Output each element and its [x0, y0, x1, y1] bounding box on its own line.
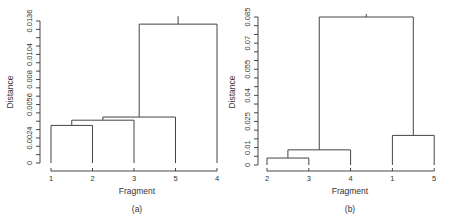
y-tick-label: 0.04 — [243, 88, 252, 103]
y-tick-label: 0.085 — [243, 8, 252, 27]
figure: 00.00240.00560.0080.01040.0136Distance12… — [0, 0, 449, 224]
dendrogram-b: 00.010.0250.040.0550.070.085Distance2341… — [0, 0, 449, 224]
x-axis-label: Fragment — [332, 186, 369, 196]
dendrogram-branch — [288, 150, 351, 165]
x-tick-label: 4 — [349, 174, 353, 183]
x-tick-label: 2 — [265, 174, 269, 183]
y-tick-label: 0.055 — [243, 60, 252, 79]
dendrogram-branch — [319, 17, 413, 150]
x-tick-label: 1 — [390, 174, 394, 183]
y-tick-label: 0.025 — [243, 112, 252, 131]
y-axis-label: Distance — [227, 75, 237, 108]
panel-caption: (b) — [345, 204, 356, 214]
dendrogram-branch — [267, 158, 309, 165]
y-tick-label: 0.01 — [243, 140, 252, 155]
x-tick-label: 3 — [307, 174, 311, 183]
y-tick-label: 0 — [243, 163, 252, 167]
dendrogram-branch — [392, 135, 434, 165]
y-tick-label: 0.07 — [243, 36, 252, 51]
x-tick-label: 5 — [432, 174, 436, 183]
